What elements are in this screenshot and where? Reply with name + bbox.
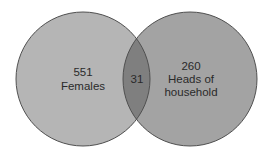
heads-of-household-label-line1: Heads of xyxy=(168,73,214,86)
overlap-count: 31 xyxy=(131,73,144,86)
females-label: Females xyxy=(61,80,105,93)
heads-of-household-count: 260 xyxy=(181,60,200,73)
heads-of-household-label-line2: household xyxy=(164,86,217,99)
females-count: 551 xyxy=(73,66,92,79)
